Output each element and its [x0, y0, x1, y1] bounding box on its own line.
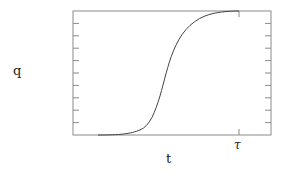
- right-axis-ticks: [265, 23, 271, 122]
- left-axis-ticks: [73, 23, 79, 122]
- tau-tick-label: τ: [234, 139, 241, 151]
- sigmoid-curve: [98, 11, 239, 135]
- x-axis-label: t: [166, 152, 171, 165]
- chart-figure: q t τ: [0, 0, 284, 177]
- axes-frame: [73, 11, 271, 135]
- plot-area: [0, 0, 284, 177]
- y-axis-label: q: [13, 64, 21, 77]
